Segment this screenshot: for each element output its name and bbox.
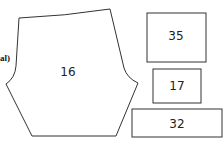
- piece-17: 17: [153, 69, 201, 103]
- piece-32-label: 32: [169, 117, 184, 131]
- piece-16: 16: [6, 9, 138, 136]
- piece-16-label: 16: [60, 65, 75, 79]
- piece-32: 32: [132, 109, 222, 137]
- piece-35: 35: [147, 13, 206, 62]
- pattern-diagram: 16 35 17 32: [0, 0, 224, 142]
- piece-35-label: 35: [168, 29, 183, 43]
- piece-17-label: 17: [169, 79, 184, 93]
